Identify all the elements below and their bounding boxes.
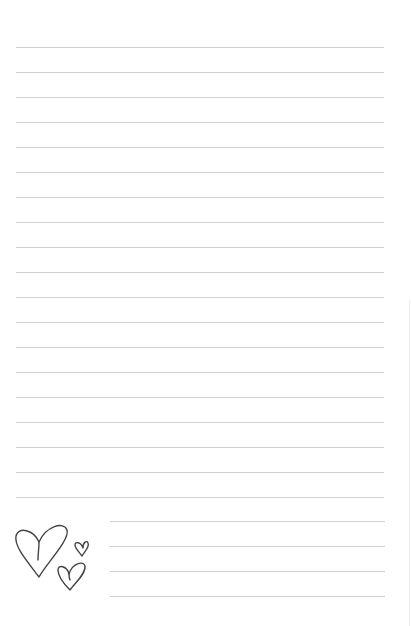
writing-line bbox=[16, 97, 384, 98]
writing-line bbox=[16, 147, 384, 148]
page-edge bbox=[409, 300, 410, 626]
writing-line bbox=[16, 497, 384, 498]
writing-line bbox=[16, 397, 384, 398]
short-writing-line bbox=[110, 571, 385, 572]
writing-line bbox=[16, 197, 384, 198]
writing-line bbox=[16, 447, 384, 448]
writing-line bbox=[16, 122, 384, 123]
writing-line bbox=[16, 272, 384, 273]
writing-line bbox=[16, 47, 384, 48]
writing-line bbox=[16, 372, 384, 373]
writing-line bbox=[16, 72, 384, 73]
short-writing-line bbox=[110, 596, 385, 597]
lined-paper bbox=[0, 0, 411, 626]
writing-line bbox=[16, 422, 384, 423]
writing-line bbox=[16, 172, 384, 173]
writing-line bbox=[16, 322, 384, 323]
writing-line bbox=[16, 222, 384, 223]
short-writing-line bbox=[110, 546, 385, 547]
hearts-icon bbox=[12, 522, 94, 594]
writing-line bbox=[16, 297, 384, 298]
short-writing-line bbox=[110, 521, 385, 522]
writing-line bbox=[16, 247, 384, 248]
writing-line bbox=[16, 472, 384, 473]
writing-line bbox=[16, 347, 384, 348]
